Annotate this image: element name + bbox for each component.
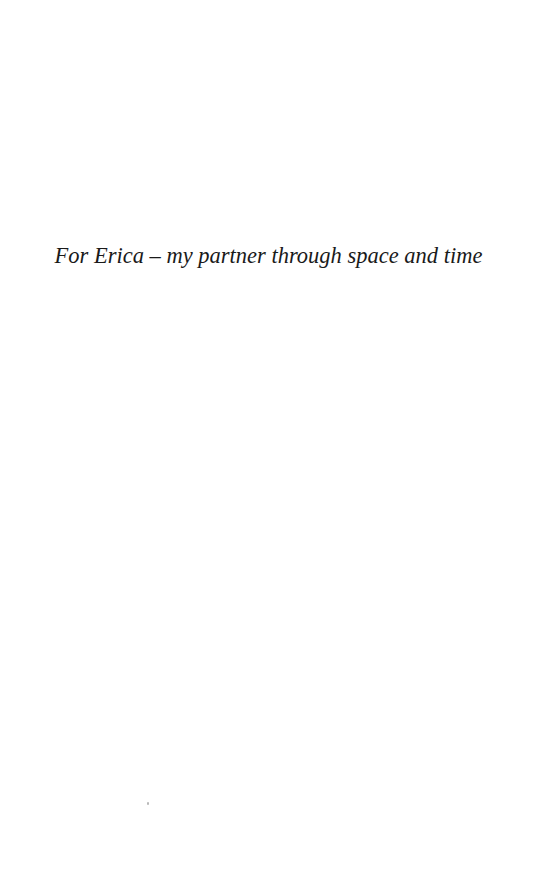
dedication-text: For Erica – my partner through space and… — [0, 242, 537, 270]
book-page: For Erica – my partner through space and… — [0, 0, 537, 879]
scan-artifact-dot — [147, 802, 149, 805]
